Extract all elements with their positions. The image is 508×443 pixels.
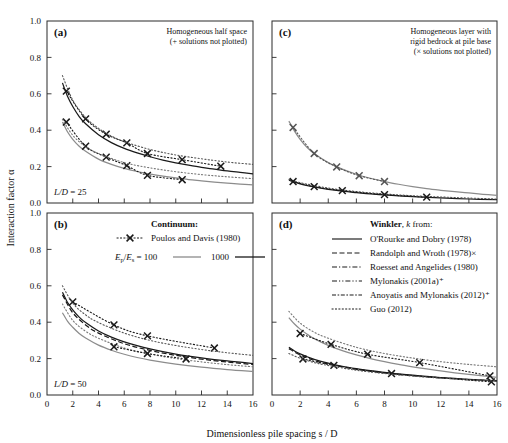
- y-tick-label: 1.0: [30, 208, 42, 218]
- data-marker-x: [69, 298, 76, 305]
- x-tick-label: 10: [408, 399, 418, 409]
- x-tick-label: 16: [493, 399, 503, 409]
- x-tick-label: 12: [436, 399, 445, 409]
- panel-d-series: [289, 311, 497, 385]
- series-line: [62, 83, 253, 174]
- panel-c-header-line: rigid bedrock at pile base: [410, 37, 491, 46]
- x-tick-label: 2: [298, 399, 303, 409]
- y-tick-label: 0.8: [30, 53, 42, 63]
- series-line: [62, 292, 253, 363]
- series-line: [66, 122, 182, 180]
- x-tick-label: 2: [71, 399, 76, 409]
- y-tick-label: 0.6: [30, 89, 42, 99]
- series-line: [62, 286, 253, 356]
- series-line: [62, 122, 253, 185]
- series-line: [289, 354, 497, 381]
- y-tick-label: 0.4: [30, 125, 42, 135]
- x-tick-label: 4: [96, 399, 101, 409]
- data-marker-x: [123, 162, 130, 169]
- series-line: [293, 127, 384, 181]
- legend-winkler-label: Roesset and Angelides (1980): [370, 262, 478, 272]
- x-tick-label: 16: [249, 399, 259, 409]
- x-axis-title: Dimensionless pile spacing s / D: [207, 428, 338, 439]
- y-tick-label: 0.4: [30, 317, 42, 327]
- legend-ratio-label: Ep/Es = 100: [114, 252, 158, 263]
- x-tick-label: 4: [326, 399, 331, 409]
- x-tick-label: 14: [464, 399, 474, 409]
- series-line: [73, 302, 215, 348]
- x-tick-label: 0: [45, 399, 50, 409]
- panel-d-tag: (d): [279, 218, 293, 231]
- legend-ratio-1000-label: 1000: [211, 252, 230, 262]
- x-tick-label: 14: [223, 399, 233, 409]
- legend-winkler-label: O'Rourke and Dobry (1978): [370, 234, 471, 244]
- y-tick-label: 0.0: [30, 390, 42, 400]
- data-marker-x: [311, 150, 318, 157]
- multi-panel-chart: 0.00.20.40.60.81.00.00.20.40.60.81.00246…: [0, 0, 508, 443]
- x-tick-label: 6: [122, 399, 127, 409]
- panel-a-tag: (a): [54, 26, 67, 39]
- panel-a-series: [62, 76, 253, 185]
- y-tick-label: 0.0: [30, 198, 42, 208]
- y-tick-label: 0.6: [30, 281, 42, 291]
- x-tick-label: 0: [270, 399, 275, 409]
- series-line: [62, 304, 253, 367]
- panel-c-series: [289, 121, 497, 200]
- panel-a-annotation: L/D = 25: [53, 187, 87, 197]
- data-marker-x: [82, 143, 89, 150]
- x-tick-label: 8: [148, 399, 153, 409]
- legend-continuum-title: Continuum:: [151, 219, 198, 229]
- panel-b-annotation: L/D = 50: [53, 379, 87, 389]
- data-marker-x: [82, 116, 89, 123]
- data-marker-x: [333, 164, 340, 171]
- y-tick-label: 0.2: [30, 162, 41, 172]
- legend-continuum-label: Poulos and Davis (1980): [151, 233, 240, 243]
- y-tick-label: 0.2: [30, 354, 41, 364]
- series-line: [62, 76, 253, 165]
- y-tick-label: 1.0: [30, 16, 42, 26]
- series-line: [289, 318, 497, 378]
- panel-c-header-line: (× solutions not plotted): [414, 47, 492, 56]
- legend-winkler-label: Guo (2012): [370, 304, 412, 314]
- legend-winkler-label: Mylonakis (2001a)⁺: [370, 276, 444, 286]
- series-line: [62, 295, 253, 365]
- panel-b-series: [62, 286, 253, 372]
- x-tick-label: 6: [354, 399, 359, 409]
- data-marker-x: [179, 176, 186, 183]
- figure-container: 0.00.20.40.60.81.00.00.20.40.60.81.00246…: [0, 0, 508, 443]
- y-tick-label: 0.8: [30, 245, 42, 255]
- panel-c-tag: (c): [279, 26, 292, 39]
- panel-b-tag: (b): [54, 218, 68, 231]
- panel-a-header-line: Homogeneous half space: [167, 27, 248, 36]
- y-axis-title: Interaction factor α: [5, 169, 16, 247]
- x-tick-label: 10: [171, 399, 181, 409]
- data-marker-x: [297, 330, 304, 337]
- legend-continuum: Continuum:Poulos and Davis (1980)Ep/Es =…: [114, 219, 265, 263]
- x-tick-label: 8: [382, 399, 387, 409]
- series-line: [300, 333, 490, 375]
- series-line: [289, 349, 497, 381]
- legend-winkler: Winkler, k from:O'Rourke and Dobry (1978…: [332, 219, 490, 314]
- data-marker-x: [111, 322, 118, 329]
- x-tick-label: 12: [197, 399, 206, 409]
- legend-winkler-title: Winkler, k from:: [370, 219, 433, 229]
- panel-a-header-line: (+ solutions not plotted): [170, 37, 248, 46]
- legend-winkler-label: Randolph and Wroth (1978)×: [370, 248, 476, 258]
- panel-c-header-line: Homogeneous layer with: [411, 27, 491, 36]
- legend-winkler-label: Anoyatis and Mylonakis (2012)⁺: [370, 290, 490, 300]
